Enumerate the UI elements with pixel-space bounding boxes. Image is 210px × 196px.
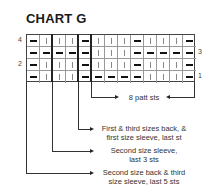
purl-symbol-icon [173,52,180,54]
chart-cell [170,71,183,83]
arrow-right-icon [90,149,94,153]
chart-cell [53,71,66,83]
purl-symbol-icon [30,52,37,54]
chart-cell [27,59,40,71]
knit-symbol-icon [176,74,177,80]
knit-symbol-icon [124,62,125,68]
label-line: Second size sleeve, [96,146,192,155]
arrow-right-icon [90,127,94,131]
knit-symbol-icon [111,50,112,56]
last5-label: Second size back & third size sleeve, la… [96,168,192,186]
purl-symbol-icon [56,52,63,54]
knit-symbol-icon [98,50,99,56]
purl-symbol-icon [43,52,50,54]
chart-cell [170,35,183,47]
knit-symbol-icon [59,62,60,68]
purl-symbol-icon [134,40,141,42]
knit-symbol-icon [46,74,47,80]
chart-cell [105,47,118,59]
chart-title: CHART G [26,11,87,26]
knit-symbol-icon [46,62,47,68]
purl-symbol-icon [30,64,37,66]
row-number-3: 3 [198,48,202,55]
chart-cell [144,47,157,59]
last-st-label: First & third sizes back, & first size s… [96,124,192,142]
purl-symbol-icon [134,64,141,66]
chart-cell [144,59,157,71]
chart-cell [92,47,105,59]
divider-line [77,34,79,82]
row-number-2: 2 [18,60,22,67]
chart-cell [131,47,144,59]
chart-cell [170,59,183,71]
divider-line [90,34,92,82]
purl-symbol-icon [186,52,193,54]
knit-symbol-icon [150,74,151,80]
purl-symbol-icon [160,52,167,54]
chart-cell [92,71,105,83]
chart-cell [53,47,66,59]
chart-cell [118,47,131,59]
label-line: first size sleeve, last st [96,133,192,142]
chart-cell [157,59,170,71]
chart-cell [170,47,183,59]
repeat-label: 8 patt sts [122,93,166,102]
knit-symbol-icon [150,62,151,68]
chart-cell [92,59,105,71]
label-line: size sleeve, last 5 sts [96,177,192,186]
last-st-leader [78,82,79,130]
purl-symbol-icon [95,76,102,78]
repeat-bracket-line-left [91,97,115,98]
knit-symbol-icon [59,38,60,44]
arrow-right-icon [90,171,94,175]
purl-symbol-icon [82,64,89,66]
chart-cell [27,47,40,59]
chart-cell [53,59,66,71]
chart-cell [183,47,196,59]
chart-cell [118,59,131,71]
chart-cell [183,59,196,71]
knit-symbol-icon [176,38,177,44]
repeat-bracket-right [194,82,195,98]
knit-symbol-icon [98,62,99,68]
purl-symbol-icon [108,76,115,78]
arrow-right-icon [115,95,119,99]
last-st-leader-h [78,129,90,130]
label-line: last 3 sts [96,155,192,164]
knit-symbol-icon [111,62,112,68]
chart-cell [27,35,40,47]
purl-symbol-icon [82,76,89,78]
chart-cell [105,59,118,71]
knit-symbol-icon [72,74,73,80]
purl-symbol-icon [30,76,37,78]
knit-symbol-icon [98,38,99,44]
purl-symbol-icon [186,64,193,66]
chart-cell [27,71,40,83]
purl-symbol-icon [121,76,128,78]
last3-leader-h [52,151,90,152]
chart-cell [144,71,157,83]
knit-symbol-icon [150,38,151,44]
knit-symbol-icon [59,74,60,80]
knit-symbol-icon [176,62,177,68]
knit-symbol-icon [111,38,112,44]
purl-symbol-icon [134,76,141,78]
label-line: Second size back & third [96,168,192,177]
knit-symbol-icon [163,74,164,80]
chart-cell [118,71,131,83]
chart-cell [105,35,118,47]
chart-cell [53,35,66,47]
chart-cell [144,35,157,47]
label-line: First & third sizes back, & [96,124,192,133]
row-number-1: 1 [198,72,202,79]
chart-cell [131,59,144,71]
chart-cell [157,35,170,47]
knit-symbol-icon [163,62,164,68]
last3-label: Second size sleeve, last 3 sts [96,146,192,164]
knit-symbol-icon [124,50,125,56]
row-number-4: 4 [18,36,22,43]
purl-symbol-icon [30,40,37,42]
purl-symbol-icon [82,52,89,54]
knit-symbol-icon [46,38,47,44]
purl-symbol-icon [147,52,154,54]
